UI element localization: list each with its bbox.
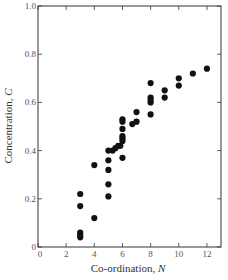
data-point	[105, 157, 111, 163]
y-tick-labels: 00.20.40.60.81.0	[25, 1, 37, 252]
data-point	[162, 87, 168, 93]
plot-frame	[38, 6, 221, 247]
x-tick-label: 6	[120, 249, 125, 259]
data-point	[119, 155, 125, 161]
data-point	[148, 111, 154, 117]
x-tick-labels: 024681012	[38, 249, 212, 259]
y-tick-label: 0	[32, 242, 37, 252]
data-point	[162, 94, 168, 100]
data-point	[119, 138, 125, 144]
y-tick-label: 0.6	[25, 97, 37, 107]
data-point	[148, 80, 154, 86]
data-point	[204, 66, 210, 72]
data-point	[91, 215, 97, 221]
data-point	[105, 193, 111, 199]
data-point	[77, 203, 83, 209]
x-tick-label: 10	[174, 249, 184, 259]
x-tick-label: 2	[64, 249, 69, 259]
x-axis-label: Co-ordination, N	[91, 262, 166, 274]
x-tick-label: 4	[92, 249, 97, 259]
axis-ticks	[38, 6, 221, 247]
y-tick-label: 1.0	[25, 1, 37, 11]
data-point	[119, 119, 125, 125]
y-tick-label: 0.8	[25, 49, 37, 59]
scatter-chart: 024681012 00.20.40.60.81.0 Co-ordination…	[0, 0, 228, 280]
data-point	[190, 70, 196, 76]
y-tick-label: 0.4	[25, 146, 37, 156]
data-point	[133, 119, 139, 125]
data-point	[105, 167, 111, 173]
data-point	[148, 99, 154, 105]
y-tick-label: 0.2	[25, 194, 36, 204]
data-points	[77, 66, 210, 241]
data-point	[77, 191, 83, 197]
x-tick-label: 0	[38, 249, 43, 259]
x-tick-label: 8	[148, 249, 153, 259]
y-axis-label: Concentration, C	[2, 88, 14, 164]
data-point	[133, 109, 139, 115]
data-point	[119, 126, 125, 132]
data-point	[176, 82, 182, 88]
plot-border	[38, 6, 221, 247]
x-tick-label: 12	[202, 249, 211, 259]
data-point	[91, 162, 97, 168]
data-point	[176, 75, 182, 81]
data-point	[77, 234, 83, 240]
data-point	[105, 181, 111, 187]
